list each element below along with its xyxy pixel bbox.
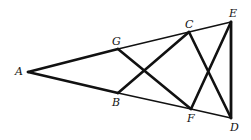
segment-AB	[28, 72, 118, 93]
point-label-e: E	[229, 8, 237, 19]
segment-FE	[191, 22, 231, 109]
point-label-d: D	[230, 122, 239, 133]
segment-FD	[191, 109, 231, 118]
point-label-b: B	[112, 97, 120, 108]
point-label-a: A	[15, 66, 23, 77]
point-label-f: F	[187, 113, 195, 124]
geometry-diagram: A G B C E F D	[0, 0, 251, 140]
segment-CD	[189, 32, 231, 118]
point-label-c: C	[185, 19, 193, 30]
segment-GF	[118, 49, 191, 109]
diagram-lines	[0, 0, 251, 140]
segment-CE	[189, 22, 231, 32]
segment-AG	[28, 49, 118, 72]
point-label-g: G	[112, 36, 121, 47]
